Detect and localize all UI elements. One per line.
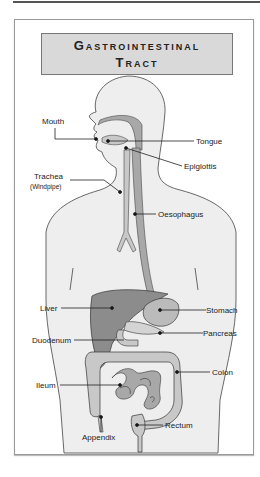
- label-stomach: Stomach: [206, 306, 238, 315]
- label-liver: Liver: [40, 304, 57, 313]
- label-epiglottis: Epiglottis: [184, 162, 216, 171]
- label-tongue: Tongue: [196, 137, 222, 146]
- label-duodenum: Duodenum: [32, 336, 71, 345]
- label-colon: Colon: [212, 368, 233, 377]
- title-line-2: Tract: [42, 54, 232, 71]
- label-ileum: Ileum: [36, 381, 56, 390]
- label-oesophagus: Oesophagus: [158, 210, 203, 219]
- label-pancreas: Pancreas: [203, 329, 237, 338]
- label-trachea: Trachea: [34, 172, 63, 181]
- label-windpipe: (Windpipe): [30, 182, 61, 191]
- title-line-1: Gastrointestinal: [42, 37, 232, 54]
- label-mouth: Mouth: [42, 117, 64, 126]
- label-rectum: Rectum: [165, 421, 193, 430]
- title-box: Gastrointestinal Tract: [41, 33, 233, 75]
- label-appendix: Appendix: [82, 433, 115, 442]
